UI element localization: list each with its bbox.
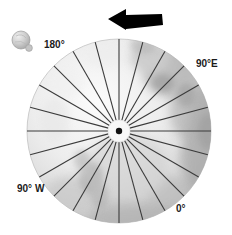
longitude-label-90w: 90° W <box>17 184 44 194</box>
inset-sphere-layer <box>0 0 232 235</box>
longitude-label-180: 180° <box>44 40 65 50</box>
longitude-label-0: 0° <box>176 204 186 214</box>
polar-meridian-figure: 180° 90°E 0° 90° W <box>0 0 232 235</box>
longitude-label-90e: 90°E <box>196 59 218 69</box>
inset-sphere <box>12 31 32 51</box>
